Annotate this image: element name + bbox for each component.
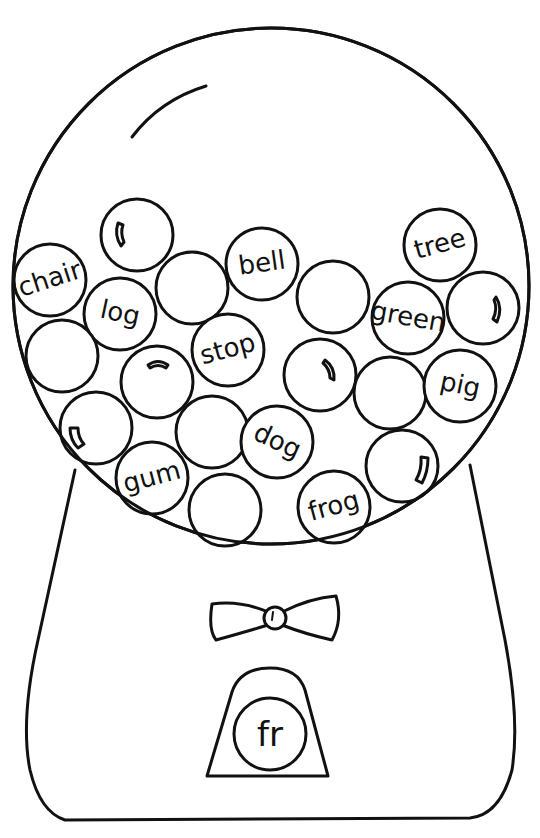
gumball[interactable] (284, 339, 356, 411)
gumball[interactable] (121, 346, 193, 418)
crank-knob-shine (272, 612, 273, 620)
chute-blend-label: fr (257, 714, 283, 754)
crank-handle-icon[interactable] (282, 596, 339, 640)
gumball[interactable] (101, 199, 173, 271)
gumball[interactable] (156, 252, 228, 324)
gumball[interactable] (26, 320, 98, 392)
crank-knob[interactable] (264, 607, 286, 629)
gumball[interactable] (447, 272, 519, 344)
gumball-machine-illustration: chair bell log tree green stop pig dog (0, 0, 540, 838)
crank-handle-icon[interactable] (211, 603, 268, 640)
gumball[interactable] (297, 261, 369, 333)
gumball[interactable] (354, 357, 426, 429)
gumball[interactable] (176, 396, 248, 468)
